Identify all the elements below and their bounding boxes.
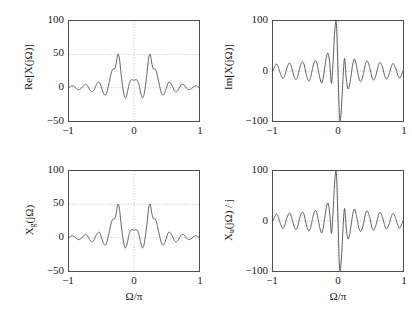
y-axis-label-top-right: Im[X(jΩ)]	[221, 17, 235, 117]
y-tick-top-left-100: 100	[34, 13, 64, 25]
y-tick-bottom-left-50: 50	[34, 196, 64, 208]
y-axis-label-bottom-right-main: X	[222, 233, 234, 241]
y-tick-top-right-100: 100	[238, 13, 268, 25]
y-axis-label-bottom-right: Xu(jΩ) / j	[221, 162, 235, 278]
x-tick-bottom-right-1: 1	[394, 274, 412, 286]
y-tick-bottom-left-0: 0	[34, 230, 64, 242]
figure-container: Re[X(jΩ)] 100 50 0 −50 −1 0 1 Im[X(jΩ)] …	[0, 0, 412, 313]
y-axis-label-bottom-right-subscript: u	[227, 229, 236, 233]
y-axis-label-bottom-left-subscript: g	[28, 223, 37, 227]
y-axis-label-bottom-left: Xg(jΩ)	[22, 177, 36, 263]
y-tick-bottom-right-100: 100	[238, 163, 268, 175]
x-tick-bottom-right-0: 0	[328, 274, 348, 286]
plot-canvas-bottom-right	[273, 171, 403, 271]
plot-canvas-bottom-left	[69, 171, 199, 271]
plot-frame-top-left	[68, 20, 200, 122]
y-axis-label-top-left: Re[X(jΩ)]	[21, 17, 35, 117]
x-tick-bottom-left-1: 1	[190, 274, 210, 286]
x-tick-top-right-0: 0	[328, 124, 348, 136]
plot-canvas-top-left	[69, 21, 199, 121]
x-axis-label-bottom-right: Ω/π	[308, 290, 368, 302]
x-tick-bottom-left-0: 0	[124, 274, 144, 286]
y-tick-top-left-50: 50	[34, 46, 64, 58]
y-tick-bottom-right-0: 0	[238, 214, 268, 226]
x-tick-top-right-1: 1	[394, 124, 412, 136]
plot-frame-bottom-left	[68, 170, 200, 272]
x-tick-top-right-neg1: −1	[262, 124, 282, 136]
x-tick-top-left-1: 1	[190, 124, 210, 136]
x-tick-bottom-right-neg1: −1	[262, 274, 282, 286]
x-axis-label-bottom-left: Ω/π	[104, 290, 164, 302]
y-tick-top-left-0: 0	[34, 80, 64, 92]
y-axis-label-bottom-right-tail: (jΩ) / j	[222, 199, 234, 229]
plot-canvas-top-right	[273, 21, 403, 121]
y-tick-top-right-0: 0	[238, 64, 268, 76]
plot-frame-top-right	[272, 20, 404, 122]
x-tick-top-left-neg1: −1	[58, 124, 78, 136]
plot-frame-bottom-right	[272, 170, 404, 272]
x-tick-bottom-left-neg1: −1	[58, 274, 78, 286]
y-tick-bottom-left-100: 100	[34, 163, 64, 175]
x-tick-top-left-0: 0	[124, 124, 144, 136]
